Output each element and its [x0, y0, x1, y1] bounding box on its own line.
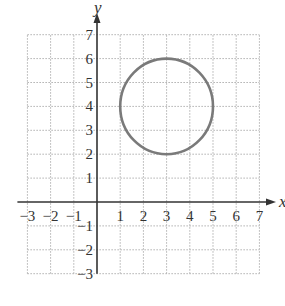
y-tick-label: −1 — [77, 218, 93, 234]
x-axis-label: x — [278, 192, 285, 211]
x-tick-label: 4 — [186, 208, 194, 224]
axes — [17, 13, 276, 274]
y-tick-label: 1 — [86, 170, 94, 186]
x-tick-label: 5 — [209, 208, 217, 224]
y-axis-label: y — [92, 0, 102, 17]
x-tick-label: 3 — [163, 208, 171, 224]
coordinate-plane: −3−2−11234567−3−2−11234567 x y — [0, 0, 285, 306]
x-axis-arrow-icon — [266, 199, 276, 206]
x-tick-label: −2 — [43, 208, 59, 224]
x-tick-label: 6 — [232, 208, 240, 224]
y-tick-label: 7 — [86, 27, 94, 43]
x-tick-label: 7 — [256, 208, 264, 224]
y-tick-label: 4 — [86, 98, 94, 114]
y-tick-label: 5 — [86, 75, 94, 91]
y-tick-label: 2 — [86, 146, 94, 162]
x-tick-label: −3 — [19, 208, 35, 224]
y-tick-label: 6 — [86, 51, 94, 67]
y-tick-label: 3 — [86, 122, 94, 138]
grid-lines — [27, 35, 259, 274]
x-tick-label: 2 — [140, 208, 148, 224]
y-tick-label: −3 — [77, 266, 93, 282]
x-tick-label: 1 — [116, 208, 124, 224]
y-tick-label: −2 — [77, 242, 93, 258]
